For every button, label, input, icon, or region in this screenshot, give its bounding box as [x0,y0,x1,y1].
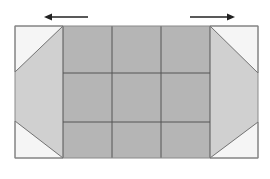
right-flap [210,26,258,158]
diagram-canvas [0,0,270,179]
left-flap [15,26,63,158]
center-grid [63,26,210,158]
folding-diagram [0,0,270,179]
